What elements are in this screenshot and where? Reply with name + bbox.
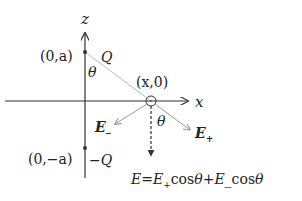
bottom-charge-label: −Q <box>89 152 113 168</box>
bottom-charge-coord: (0,−a) <box>28 151 72 167</box>
top-charge-coord: (0,a) <box>40 48 73 64</box>
field-point-coord: (x,0) <box>136 74 168 90</box>
top-charge-label: Q <box>101 49 113 65</box>
e-plus-label: E+ <box>194 125 213 144</box>
e-minus-vector <box>115 104 147 124</box>
theta-top-label: θ <box>88 64 97 80</box>
x-axis-label: x <box>195 93 204 111</box>
theta-field-label: θ <box>157 113 166 129</box>
charge-bottom-dot <box>83 146 87 150</box>
charge-top-dot <box>83 50 87 54</box>
field-point-center <box>150 100 152 102</box>
z-axis-label: z <box>80 10 89 28</box>
dipole-field-diagram: z x (0,a) Q θ (x,0) θ E+ E_ (0,−a) −Q E=… <box>0 0 302 201</box>
field-equation: E=E+cosθ+E_cosθ <box>130 171 264 190</box>
e-minus-label: E_ <box>94 119 111 135</box>
